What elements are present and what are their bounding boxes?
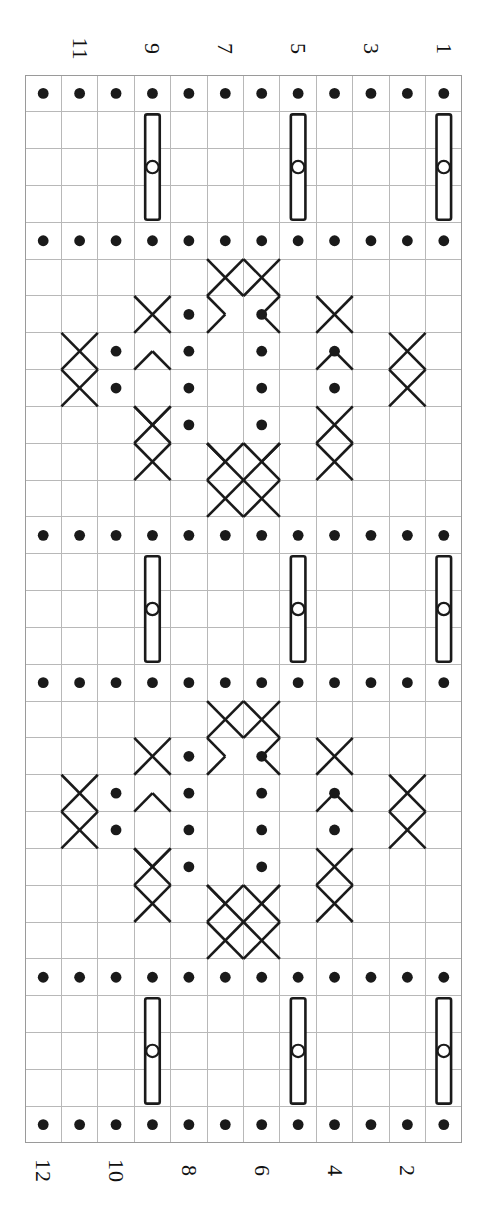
column-number-bottom-10: 10 <box>105 1151 127 1191</box>
column-number-top-1: 1 <box>433 29 455 69</box>
column-number-top-3: 3 <box>360 29 382 69</box>
knitting-chart: 11 9 7 5 3 1 12 10 8 6 4 2 <box>0 0 489 1229</box>
column-number-top-7: 7 <box>214 29 236 69</box>
column-number-bottom-6: 6 <box>251 1151 273 1191</box>
column-number-top-5: 5 <box>287 29 309 69</box>
column-number-bottom-2: 2 <box>396 1151 418 1191</box>
column-number-bottom-12: 12 <box>32 1151 54 1191</box>
stitch-grid-svg <box>25 75 462 1143</box>
stitch-grid <box>25 75 462 1143</box>
column-number-top-9: 9 <box>141 29 163 69</box>
column-number-top-11: 11 <box>69 29 91 69</box>
column-number-bottom-4: 4 <box>324 1151 346 1191</box>
column-number-bottom-8: 8 <box>178 1151 200 1191</box>
